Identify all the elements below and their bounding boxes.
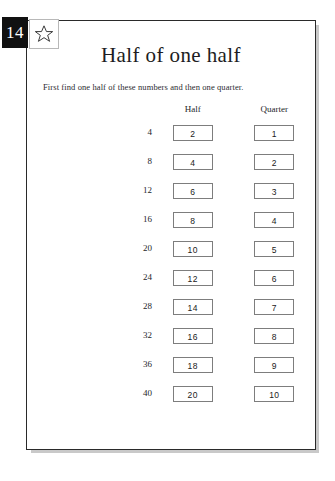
half-answer-box[interactable]: 8	[173, 212, 213, 228]
source-number: 4	[27, 117, 152, 146]
half-cell: 14	[152, 291, 234, 320]
source-number: 32	[27, 320, 152, 349]
half-answer-box[interactable]: 6	[173, 183, 213, 199]
page-title: Half of one half	[27, 43, 315, 68]
half-answer-box[interactable]: 20	[173, 386, 213, 402]
star-badge	[29, 19, 59, 49]
column-header-source	[27, 103, 152, 117]
source-number: 8	[27, 146, 152, 175]
quarter-answer-box[interactable]: 8	[254, 328, 294, 344]
quarter-cell: 8	[233, 320, 315, 349]
half-cell: 18	[152, 349, 234, 378]
half-cell: 20	[152, 378, 234, 407]
quarter-answer-box[interactable]: 10	[254, 386, 294, 402]
quarter-cell: 6	[233, 262, 315, 291]
source-number: 12	[27, 175, 152, 204]
half-answer-box[interactable]: 10	[173, 241, 213, 257]
instruction-text: First find one half of these numbers and…	[37, 82, 305, 92]
table-header-row: Half Quarter	[27, 103, 315, 117]
quarter-cell: 3	[233, 175, 315, 204]
table-row: 36 18 9	[27, 349, 315, 378]
quarter-cell: 9	[233, 349, 315, 378]
worksheet-page: Half of one half First find one half of …	[26, 20, 316, 450]
quarter-answer-box[interactable]: 5	[254, 241, 294, 257]
table-row: 4 2 1	[27, 117, 315, 146]
half-answer-box[interactable]: 14	[173, 299, 213, 315]
source-number: 36	[27, 349, 152, 378]
half-cell: 16	[152, 320, 234, 349]
table-row: 24 12 6	[27, 262, 315, 291]
quarter-answer-box[interactable]: 6	[254, 270, 294, 286]
source-number: 24	[27, 262, 152, 291]
table-row: 16 8 4	[27, 204, 315, 233]
page-number-label: 14	[6, 23, 24, 43]
answer-table: Half Quarter 4 2 1 8 4 2 12 6 3 16 8	[27, 103, 315, 407]
half-answer-box[interactable]: 16	[173, 328, 213, 344]
table-row: 8 4 2	[27, 146, 315, 175]
source-number: 40	[27, 378, 152, 407]
quarter-answer-box[interactable]: 7	[254, 299, 294, 315]
table-row: 32 16 8	[27, 320, 315, 349]
quarter-answer-box[interactable]: 1	[254, 125, 294, 141]
column-header-half: Half	[152, 103, 234, 117]
quarter-cell: 7	[233, 291, 315, 320]
half-answer-box[interactable]: 12	[173, 270, 213, 286]
page-number-badge: 14	[2, 17, 28, 48]
star-icon	[34, 24, 54, 44]
half-cell: 6	[152, 175, 234, 204]
half-cell: 12	[152, 262, 234, 291]
quarter-cell: 1	[233, 117, 315, 146]
quarter-answer-box[interactable]: 3	[254, 183, 294, 199]
half-answer-box[interactable]: 18	[173, 357, 213, 373]
quarter-cell: 4	[233, 204, 315, 233]
source-number: 16	[27, 204, 152, 233]
quarter-answer-box[interactable]: 9	[254, 357, 294, 373]
quarter-cell: 5	[233, 233, 315, 262]
half-cell: 4	[152, 146, 234, 175]
half-cell: 2	[152, 117, 234, 146]
quarter-answer-box[interactable]: 4	[254, 212, 294, 228]
half-cell: 8	[152, 204, 234, 233]
quarter-cell: 10	[233, 378, 315, 407]
table-row: 40 20 10	[27, 378, 315, 407]
quarter-answer-box[interactable]: 2	[254, 154, 294, 170]
column-header-quarter: Quarter	[233, 103, 315, 117]
table-row: 20 10 5	[27, 233, 315, 262]
half-answer-box[interactable]: 4	[173, 154, 213, 170]
table-row: 28 14 7	[27, 291, 315, 320]
quarter-cell: 2	[233, 146, 315, 175]
source-number: 28	[27, 291, 152, 320]
table-row: 12 6 3	[27, 175, 315, 204]
half-cell: 10	[152, 233, 234, 262]
source-number: 20	[27, 233, 152, 262]
half-answer-box[interactable]: 2	[173, 125, 213, 141]
